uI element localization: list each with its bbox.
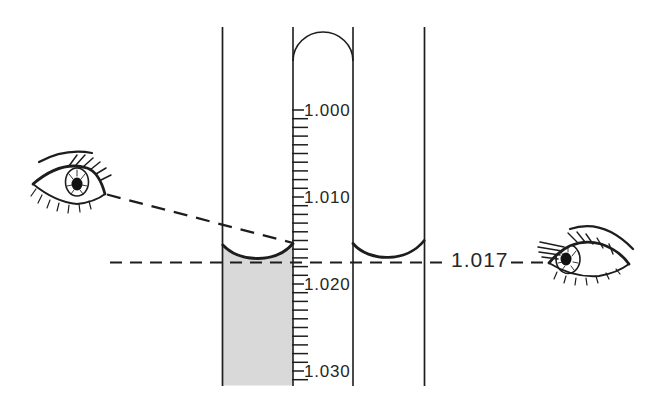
eye-at-meniscus-level-icon bbox=[538, 226, 633, 285]
urinometer-reading-diagram: 1.000 1.010 1.020 1.030 1.017 bbox=[0, 0, 657, 410]
eye-looking-down-icon bbox=[31, 152, 111, 213]
sight-line-incorrect bbox=[107, 195, 293, 244]
scale-label-1000: 1.000 bbox=[304, 102, 351, 119]
scale-label-1010: 1.010 bbox=[304, 189, 351, 206]
fluid-shaded-area bbox=[223, 245, 293, 386]
stem-dome bbox=[293, 32, 353, 61]
scale-ticks bbox=[292, 110, 308, 380]
scale-label-1020: 1.020 bbox=[304, 276, 351, 293]
scale-label-1030: 1.030 bbox=[304, 363, 351, 380]
meniscus-right bbox=[353, 241, 424, 258]
reading-value-label: 1.017 bbox=[451, 249, 509, 270]
